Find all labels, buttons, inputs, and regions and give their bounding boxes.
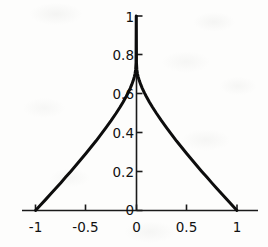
x-tick-label: 1 xyxy=(233,219,242,235)
plot-canvas: -1 -0.5 0 0.5 1 0 0.2 0.4 0.6 0.8 1 xyxy=(0,0,268,247)
x-tick-marks xyxy=(36,205,238,211)
y-tick-label: 0.2 xyxy=(113,164,134,180)
x-tick-label: -0.5 xyxy=(72,219,98,235)
x-tick-label: 0.5 xyxy=(176,219,197,235)
y-tick-label: 0.4 xyxy=(113,125,134,141)
x-tick-label: 0 xyxy=(132,219,141,235)
x-tick-labels: -1 -0.5 0 0.5 1 xyxy=(29,219,242,235)
figure-plot-area: -1 -0.5 0 0.5 1 0 0.2 0.4 0.6 0.8 1 xyxy=(0,0,268,247)
y-tick-label: 0 xyxy=(125,202,134,218)
y-tick-label: 0.8 xyxy=(113,47,134,63)
y-tick-label: 1 xyxy=(125,9,134,25)
x-tick-label: -1 xyxy=(29,219,42,235)
